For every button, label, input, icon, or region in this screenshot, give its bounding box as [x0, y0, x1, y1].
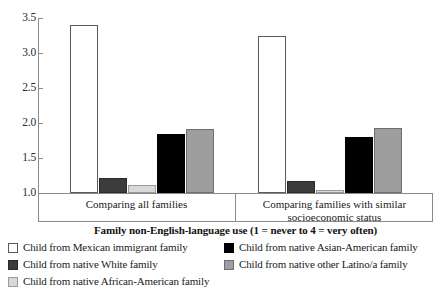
bar — [345, 137, 373, 193]
legend-label: Child from Mexican immigrant family — [23, 242, 188, 253]
plot-area: 3.53.02.52.01.51.0 Comparing all familie… — [0, 0, 443, 200]
legend-column-right: Child from native Asian-American familyC… — [224, 240, 443, 274]
bar — [287, 181, 315, 193]
legend-item: Child from native African-American famil… — [8, 274, 223, 289]
bars-layer — [0, 0, 443, 194]
category-label-group-1: Comparing all families — [38, 198, 235, 211]
category-label-group-2: Comparing families with similarsocioecon… — [236, 198, 433, 223]
bar — [258, 36, 286, 194]
bar — [316, 190, 344, 193]
bar — [186, 129, 214, 193]
legend-swatch-icon — [224, 260, 234, 270]
legend-label: Child from native African-American famil… — [23, 276, 209, 287]
legend-label: Child from native Asian-American family — [239, 242, 418, 253]
category-label-line: Comparing families with similar — [236, 198, 433, 211]
bar — [99, 178, 127, 193]
bar — [374, 128, 402, 193]
legend-label: Child from native White family — [23, 259, 158, 270]
legend-label: Child from native other Latino/a family — [239, 259, 408, 270]
legend-swatch-icon — [8, 260, 18, 270]
bar — [70, 25, 98, 193]
chart-legend: Child from Mexican immigrant familyChild… — [0, 240, 443, 295]
legend-item: Child from native Asian-American family — [224, 240, 443, 255]
legend-item: Child from native White family — [8, 257, 223, 272]
x-axis-title: Family non-English-language use (1 = nev… — [38, 224, 433, 236]
legend-column-left: Child from Mexican immigrant familyChild… — [8, 240, 223, 291]
legend-swatch-icon — [8, 243, 18, 253]
category-label-line: Comparing all families — [38, 198, 235, 211]
legend-swatch-icon — [224, 243, 234, 253]
bar — [128, 185, 156, 193]
legend-item: Child from native other Latino/a family — [224, 257, 443, 272]
bar-chart-figure: 3.53.02.52.01.51.0 Comparing all familie… — [0, 0, 443, 295]
legend-swatch-icon — [8, 277, 18, 287]
category-label-line: socioeconomic status — [236, 211, 433, 224]
legend-item: Child from Mexican immigrant family — [8, 240, 223, 255]
bar — [157, 134, 185, 193]
